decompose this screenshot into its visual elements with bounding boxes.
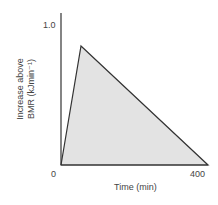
x-tick-400: 400 <box>190 169 205 179</box>
y-axis-label-line1: Increase above <box>15 49 26 129</box>
x-tick-0: 0 <box>51 169 56 179</box>
y-tick-1: 1.0 <box>43 20 56 30</box>
y-axis-label-line2: BMR (kJmin⁻¹) <box>26 49 37 129</box>
area-fill <box>61 46 208 165</box>
x-axis-label: Time (min) <box>114 182 157 192</box>
y-axis-label: Increase above BMR (kJmin⁻¹) <box>15 49 37 129</box>
